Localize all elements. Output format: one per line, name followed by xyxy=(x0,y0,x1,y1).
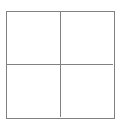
grid-cell-bottom-right xyxy=(61,65,113,117)
grid-cell-bottom-left xyxy=(7,65,61,117)
canvas xyxy=(0,0,121,123)
grid-cell-top-right xyxy=(61,12,113,65)
grid-figure xyxy=(6,11,115,119)
grid-cell-top-left xyxy=(7,12,61,65)
